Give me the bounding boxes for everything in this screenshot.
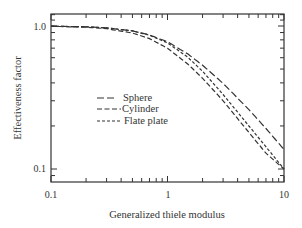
legend-item-sphere: Sphere [97,92,152,103]
plot-frame [51,14,284,182]
legend-item-cylinder: Cylinder [97,103,159,114]
y-tick-label-1.0: 1.0 [34,21,47,32]
legend-label-flate-plate: Flate plate [124,115,168,126]
curve-cylinder [51,26,284,169]
legend-label-sphere: Sphere [123,92,152,103]
axis-ticks [51,14,284,182]
curves [51,26,284,169]
legend-item-flate-plate: Flate plate [97,115,168,126]
curve-flate-plate [51,26,284,169]
y-tick-label-0.1: 0.1 [34,163,47,174]
x-tick-label-10: 10 [279,189,289,200]
legend: Sphere Cylinder Flate plate [97,92,168,126]
curve-sphere [51,26,284,149]
x-tick-label-1: 1 [166,189,171,200]
effectiveness-chart: 0.1 1 10 1.0 0.1 Generalized thiele modu… [0,0,302,228]
y-axis-title: Effectiveness factor [12,56,23,140]
x-tick-label-0.1: 0.1 [45,189,58,200]
x-axis-title: Generalized thiele modulus [109,209,224,220]
legend-label-cylinder: Cylinder [122,103,159,114]
